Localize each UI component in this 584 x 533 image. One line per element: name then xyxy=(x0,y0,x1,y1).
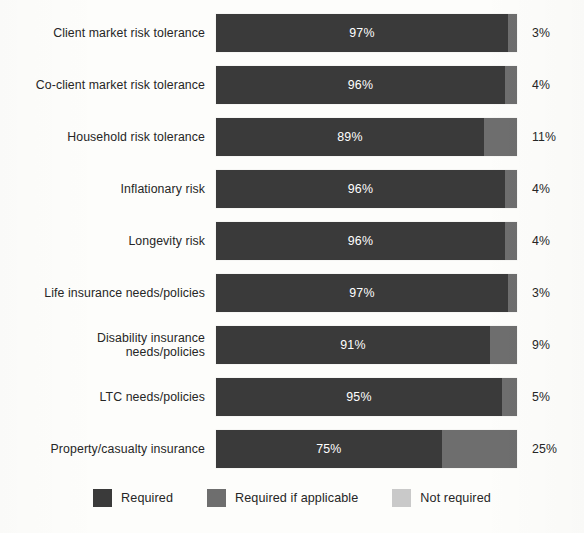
bar-end-label: 3% xyxy=(532,14,550,52)
stacked-bar: 96% xyxy=(216,170,517,208)
category-label: Disability insuranceneeds/policies xyxy=(0,326,205,364)
bar-segment-required: 96% xyxy=(216,222,505,260)
category-label-line: needs/policies xyxy=(97,345,205,360)
bar-value-label: 97% xyxy=(216,274,508,312)
stacked-bar: 89% xyxy=(216,118,517,156)
bar-row: Property/casualty insurance75%25% xyxy=(0,430,584,482)
bar-segment-required: 96% xyxy=(216,170,505,208)
bar-end-label: 25% xyxy=(532,430,557,468)
stacked-bar-chart: Client market risk tolerance97%3%Co-clie… xyxy=(0,0,584,533)
legend-item[interactable]: Not required xyxy=(392,489,491,507)
legend-item[interactable]: Required if applicable xyxy=(207,489,358,507)
chart-plot-area: Client market risk tolerance97%3%Co-clie… xyxy=(0,14,584,482)
bar-segment-required: 96% xyxy=(216,66,505,104)
category-label: Inflationary risk xyxy=(0,170,205,208)
bar-segment-if-applicable xyxy=(505,222,517,260)
bar-value-label: 96% xyxy=(216,66,505,104)
bar-value-label: 91% xyxy=(216,326,490,364)
bar-segment-if-applicable xyxy=(490,326,517,364)
bar-segment-if-applicable xyxy=(442,430,517,468)
category-label: Household risk tolerance xyxy=(0,118,205,156)
bar-segment-if-applicable xyxy=(484,118,517,156)
bar-segment-if-applicable xyxy=(505,66,517,104)
bar-row: Longevity risk96%4% xyxy=(0,222,584,274)
bar-row: Co-client market risk tolerance96%4% xyxy=(0,66,584,118)
category-label: Longevity risk xyxy=(0,222,205,260)
category-label: Life insurance needs/policies xyxy=(0,274,205,312)
legend-swatch-icon xyxy=(392,489,411,507)
chart-legend: RequiredRequired if applicableNot requir… xyxy=(0,486,584,510)
bar-segment-if-applicable xyxy=(508,274,517,312)
category-label: Client market risk tolerance xyxy=(0,14,205,52)
category-label-line: Longevity risk xyxy=(128,234,205,249)
legend-swatch-icon xyxy=(93,489,112,507)
stacked-bar: 75% xyxy=(216,430,517,468)
category-label-line: Disability insurance xyxy=(97,331,205,346)
bar-segment-if-applicable xyxy=(502,378,517,416)
category-label-line: Client market risk tolerance xyxy=(53,26,205,41)
bar-segment-if-applicable xyxy=(505,170,517,208)
bar-end-label: 9% xyxy=(532,326,550,364)
legend-swatch-icon xyxy=(207,489,226,507)
bar-value-label: 75% xyxy=(216,430,442,468)
bar-segment-if-applicable xyxy=(508,14,517,52)
bar-segment-required: 97% xyxy=(216,14,508,52)
bar-segment-required: 75% xyxy=(216,430,442,468)
category-label-line: Household risk tolerance xyxy=(67,130,205,145)
bar-value-label: 97% xyxy=(216,14,508,52)
bar-end-label: 4% xyxy=(532,66,550,104)
bar-segment-required: 97% xyxy=(216,274,508,312)
bar-row: Household risk tolerance89%11% xyxy=(0,118,584,170)
bar-end-label: 4% xyxy=(532,170,550,208)
legend-item[interactable]: Required xyxy=(93,489,173,507)
category-label: Co-client market risk tolerance xyxy=(0,66,205,104)
bar-value-label: 96% xyxy=(216,222,505,260)
bar-value-label: 95% xyxy=(216,378,502,416)
bar-row: Client market risk tolerance97%3% xyxy=(0,14,584,66)
stacked-bar: 91% xyxy=(216,326,517,364)
stacked-bar: 95% xyxy=(216,378,517,416)
stacked-bar: 96% xyxy=(216,66,517,104)
category-label-line: Property/casualty insurance xyxy=(51,442,205,457)
bar-end-label: 4% xyxy=(532,222,550,260)
bar-end-label: 11% xyxy=(532,118,556,156)
legend-label: Required xyxy=(121,491,173,505)
category-label: Property/casualty insurance xyxy=(0,430,205,468)
category-label-line: LTC needs/policies xyxy=(100,390,205,405)
bar-segment-required: 89% xyxy=(216,118,484,156)
bar-end-label: 5% xyxy=(532,378,550,416)
bar-end-label: 3% xyxy=(532,274,550,312)
legend-label: Required if applicable xyxy=(235,491,358,505)
stacked-bar: 96% xyxy=(216,222,517,260)
bar-value-label: 96% xyxy=(216,170,505,208)
stacked-bar: 97% xyxy=(216,14,517,52)
bar-row: LTC needs/policies95%5% xyxy=(0,378,584,430)
stacked-bar: 97% xyxy=(216,274,517,312)
category-label-line: Life insurance needs/policies xyxy=(44,286,205,301)
bar-row: Inflationary risk96%4% xyxy=(0,170,584,222)
bar-segment-required: 95% xyxy=(216,378,502,416)
bar-row: Disability insuranceneeds/policies91%9% xyxy=(0,326,584,378)
bar-segment-required: 91% xyxy=(216,326,490,364)
category-label-line: Inflationary risk xyxy=(121,182,205,197)
category-label-line: Co-client market risk tolerance xyxy=(36,78,205,93)
bar-value-label: 89% xyxy=(216,118,484,156)
legend-label: Not required xyxy=(420,491,491,505)
bar-row: Life insurance needs/policies97%3% xyxy=(0,274,584,326)
category-label: LTC needs/policies xyxy=(0,378,205,416)
